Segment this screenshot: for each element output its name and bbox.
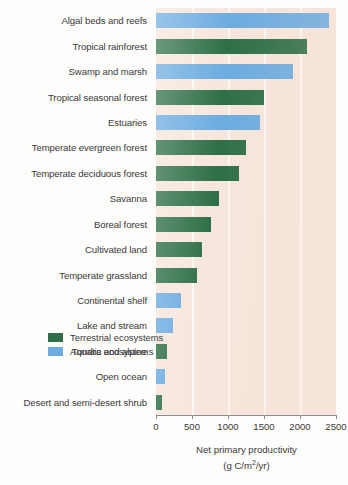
category-label: Boreal forest: [0, 212, 152, 237]
legend-swatch-aquatic: [48, 347, 63, 356]
category-label: Algal beds and reefs: [0, 8, 152, 33]
bar-row: [156, 212, 336, 237]
tick-mark: [192, 415, 193, 419]
bar-row: [156, 161, 336, 186]
bar-row: [156, 339, 336, 364]
bar: [156, 90, 264, 105]
legend-label: Aquatic ecosystems: [70, 346, 153, 357]
tick-label: 2000: [289, 421, 310, 432]
bar-row: [156, 262, 336, 287]
units-prefix: (g C/m: [223, 460, 252, 471]
bar-row: [156, 33, 336, 58]
category-label: Tropical seasonal forest: [0, 84, 152, 109]
category-label: Savanna: [0, 186, 152, 211]
tick-mark: [228, 415, 229, 419]
bar: [156, 369, 165, 384]
x-axis-line: [156, 415, 337, 416]
plot-area: [156, 8, 336, 415]
category-label: Estuaries: [0, 110, 152, 135]
category-label: Tropical rainforest: [0, 33, 152, 58]
bar: [156, 140, 246, 155]
legend-item: Terrestrial ecosystems: [48, 332, 163, 343]
bar: [156, 191, 219, 206]
category-label: Temperate deciduous forest: [0, 161, 152, 186]
bar-row: [156, 313, 336, 338]
bar: [156, 64, 293, 79]
category-label: Desert and semi-desert shrub: [0, 390, 152, 415]
bar-row: [156, 84, 336, 109]
bar-series: [156, 8, 336, 415]
legend-swatch-terrestrial: [48, 333, 63, 342]
chart-legend: Terrestrial ecosystemsAquatic ecosystems: [48, 332, 163, 360]
bar: [156, 217, 211, 232]
bar: [156, 242, 202, 257]
bar: [156, 39, 307, 54]
tick-mark: [336, 415, 337, 419]
category-label: Open ocean: [0, 364, 152, 389]
x-axis-title: Net primary productivity (g C/m2/yr): [156, 443, 337, 472]
tick-label: 0: [153, 421, 158, 432]
bar-row: [156, 8, 336, 33]
tick-mark: [264, 415, 265, 419]
units-suffix: /yr): [256, 460, 270, 471]
bar: [156, 395, 162, 410]
category-label: Temperate evergreen forest: [0, 135, 152, 160]
x-axis-title-units: (g C/m2/yr): [156, 456, 337, 472]
tick-mark: [300, 415, 301, 419]
bar-row: [156, 237, 336, 262]
category-label: Continental shelf: [0, 288, 152, 313]
bar: [156, 13, 329, 28]
x-axis-title-line1: Net primary productivity: [196, 444, 297, 455]
bar-row: [156, 390, 336, 415]
tick-mark: [156, 415, 157, 419]
tick-label: 1500: [253, 421, 274, 432]
bar-row: [156, 288, 336, 313]
category-label: Cultivated land: [0, 237, 152, 262]
tick-label: 500: [184, 421, 200, 432]
bar-row: [156, 110, 336, 135]
bar: [156, 268, 197, 283]
bar-row: [156, 186, 336, 211]
chart-figure: Algal beds and reefsTropical rainforestS…: [0, 0, 348, 485]
legend-label: Terrestrial ecosystems: [70, 332, 163, 343]
tick-label: 1000: [217, 421, 238, 432]
bar: [156, 166, 239, 181]
category-label: Temperate grassland: [0, 262, 152, 287]
bar: [156, 293, 181, 308]
bar-row: [156, 59, 336, 84]
bar-row: [156, 364, 336, 389]
legend-item: Aquatic ecosystems: [48, 346, 163, 357]
bar: [156, 115, 260, 130]
category-label: Swamp and marsh: [0, 59, 152, 84]
bar-row: [156, 135, 336, 160]
tick-label: 2500: [325, 421, 346, 432]
